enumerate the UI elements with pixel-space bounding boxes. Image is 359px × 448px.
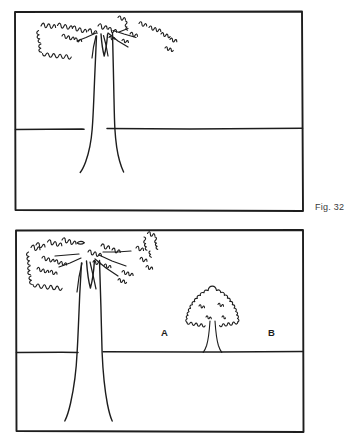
figure-33-small-tree-trunk [203, 321, 222, 352]
figure-33: A B [0, 218, 359, 448]
figure-32: Fig. 32 [0, 0, 359, 217]
figure-32-large-tree [37, 16, 177, 172]
marker-label-b: B [268, 327, 275, 338]
figure-33-large-tree [26, 232, 157, 421]
figure-32-trunk [80, 34, 123, 173]
figure-33-drawing: A B [0, 218, 359, 448]
figure-33-markers: A B [161, 327, 275, 338]
figure-32-caption: Fig. 32 [315, 202, 344, 212]
figure-32-drawing [0, 0, 359, 217]
figure-33-trunk [65, 261, 112, 422]
figure-32-horizon-line [16, 128, 303, 129]
marker-label-a: A [161, 327, 168, 338]
figure-33-frame [16, 230, 304, 432]
figure-33-small-tree [186, 286, 239, 352]
figure-33-horizon-line [17, 352, 304, 353]
illustration-page: Fig. 32 A B [0, 0, 359, 448]
figure-32-frame [15, 12, 303, 212]
figure-33-small-tree-canopy [186, 286, 239, 327]
